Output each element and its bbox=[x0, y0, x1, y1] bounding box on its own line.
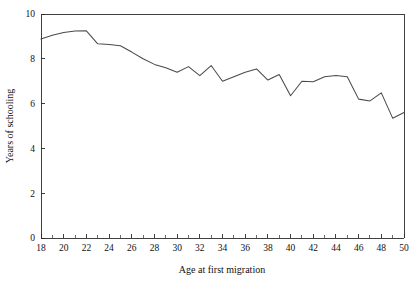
x-tick-label-44: 44 bbox=[331, 243, 341, 253]
y-tick-label-6: 6 bbox=[30, 99, 35, 109]
chart-figure: 1820222426283032343638404244464850 02468… bbox=[0, 0, 412, 281]
x-tick-label-24: 24 bbox=[104, 243, 114, 253]
x-tick-label-32: 32 bbox=[195, 243, 205, 253]
x-tick-label-36: 36 bbox=[240, 243, 250, 253]
y-axis-tick-labels: 0246810 bbox=[26, 9, 36, 243]
x-tick-label-28: 28 bbox=[150, 243, 160, 253]
line-chart-canvas: 1820222426283032343638404244464850 02468… bbox=[0, 0, 412, 281]
y-tick-label-8: 8 bbox=[30, 54, 35, 64]
chart-axes bbox=[41, 14, 404, 238]
x-tick-label-34: 34 bbox=[218, 243, 228, 253]
y-tick-label-4: 4 bbox=[30, 144, 35, 154]
x-tick-label-22: 22 bbox=[82, 243, 92, 253]
y-tick-label-0: 0 bbox=[30, 233, 35, 243]
y-tick-label-2: 2 bbox=[30, 189, 35, 199]
data-series-line bbox=[41, 31, 404, 118]
x-tick-label-50: 50 bbox=[399, 243, 409, 253]
y-tick-label-10: 10 bbox=[26, 9, 36, 19]
x-axis-title: Age at first migration bbox=[179, 264, 265, 275]
x-axis-tick-labels: 1820222426283032343638404244464850 bbox=[36, 243, 409, 253]
x-tick-label-30: 30 bbox=[172, 243, 182, 253]
x-tick-label-46: 46 bbox=[354, 243, 364, 253]
x-tick-label-18: 18 bbox=[36, 243, 46, 253]
x-tick-label-42: 42 bbox=[309, 243, 319, 253]
x-tick-label-38: 38 bbox=[263, 243, 273, 253]
x-tick-label-26: 26 bbox=[127, 243, 137, 253]
x-tick-label-48: 48 bbox=[377, 243, 387, 253]
y-axis-title: Years of schooling bbox=[4, 89, 15, 164]
x-axis-ticks bbox=[41, 234, 404, 238]
x-tick-label-40: 40 bbox=[286, 243, 296, 253]
x-tick-label-20: 20 bbox=[59, 243, 69, 253]
y-axis-ticks bbox=[41, 14, 45, 238]
